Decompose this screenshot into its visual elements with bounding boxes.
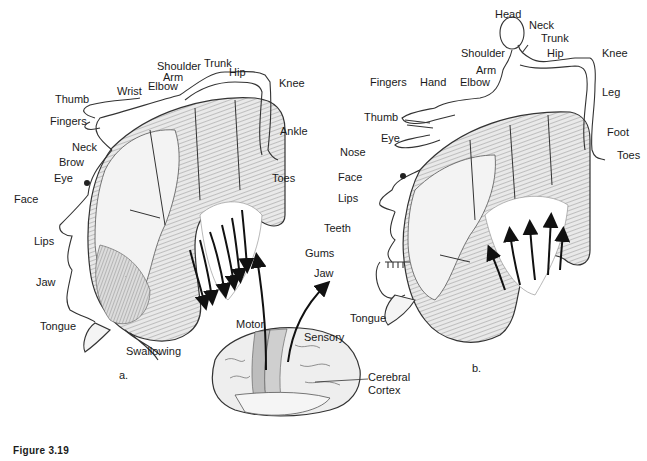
- label-b-leg: Leg: [602, 86, 620, 98]
- label-a-swallowing: Swallowing: [126, 345, 181, 357]
- label-motor: Motor: [236, 318, 264, 330]
- motor-cortex-slice: [88, 98, 285, 341]
- label-b-hip: Hip: [547, 47, 564, 59]
- label-a-neck: Neck: [72, 141, 97, 153]
- label-b-gums: Gums: [305, 247, 334, 259]
- label-b-knee: Knee: [602, 47, 628, 59]
- label-a-trunk: Trunk: [204, 57, 232, 69]
- label-a-fingers: Fingers: [50, 115, 87, 127]
- label-b-eye: Eye: [381, 132, 400, 144]
- figure-3-19: Shoulder Trunk Hip Arm Elbow Wrist Knee …: [0, 0, 647, 461]
- sensory-cortex-slice: [403, 112, 590, 342]
- figure-caption: Figure 3.19: [13, 445, 69, 456]
- label-a-elbow: Elbow: [148, 80, 178, 92]
- label-sensory: Sensory: [304, 331, 344, 343]
- panel-b-letter: b.: [472, 362, 481, 374]
- label-cortex: Cortex: [368, 384, 400, 396]
- label-b-head: Head: [495, 8, 521, 20]
- label-b-teeth: Teeth: [324, 222, 351, 234]
- label-a-ankle: Ankle: [280, 125, 308, 137]
- panel-a-letter: a.: [119, 369, 128, 381]
- label-a-eye: Eye: [54, 172, 73, 184]
- label-b-hand: Hand: [420, 76, 446, 88]
- label-b-elbow: Elbow: [460, 76, 490, 88]
- label-a-hip: Hip: [229, 66, 246, 78]
- label-b-fingers: Fingers: [370, 76, 407, 88]
- label-b-lips: Lips: [338, 192, 358, 204]
- label-a-jaw: Jaw: [36, 276, 56, 288]
- label-a-lips: Lips: [34, 235, 54, 247]
- label-b-toes: Toes: [617, 149, 640, 161]
- label-b-neck: Neck: [529, 19, 554, 31]
- label-a-knee: Knee: [279, 77, 305, 89]
- label-b-nose: Nose: [340, 146, 366, 158]
- label-b-shoulder: Shoulder: [461, 47, 505, 59]
- label-b-trunk: Trunk: [541, 32, 569, 44]
- label-a-thumb: Thumb: [55, 93, 89, 105]
- label-b-face: Face: [338, 171, 362, 183]
- label-b-tongue: Tongue: [350, 312, 386, 324]
- label-cerebral: Cerebral: [368, 371, 410, 383]
- label-a-toes: Toes: [272, 172, 295, 184]
- label-b-thumb: Thumb: [364, 111, 398, 123]
- label-b-foot: Foot: [607, 126, 629, 138]
- label-a-wrist: Wrist: [117, 85, 142, 97]
- label-a-tongue: Tongue: [40, 320, 76, 332]
- label-a-brow: Brow: [59, 156, 84, 168]
- label-b-arm: Arm: [476, 64, 496, 76]
- label-b-jaw: Jaw: [314, 267, 334, 279]
- label-a-face: Face: [14, 193, 38, 205]
